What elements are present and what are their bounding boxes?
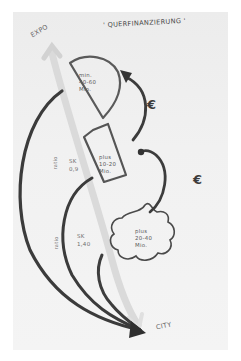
euro-icon: € — [147, 97, 156, 112]
arrowhead-euro-2-icon — [138, 149, 144, 155]
ratio-2-label: ratio — [53, 236, 59, 249]
ratio-2-code: SK — [77, 232, 90, 240]
zone-3-label: plus 20-40 Mio. — [135, 228, 152, 249]
main-axis-arrow — [52, 53, 138, 325]
diagram-canvas — [0, 0, 241, 361]
euro-icon: € — [193, 172, 202, 187]
zone-1-unit: Mio. — [79, 86, 96, 93]
ratio-1-values: SK 0,9 — [69, 157, 79, 173]
ratio-1-value: 0,9 — [69, 165, 79, 173]
zone-1-label: min. 40-60 Mio. — [79, 72, 96, 93]
zone-3-prefix: plus — [135, 228, 152, 235]
zone-3-unit: Mio. — [135, 242, 152, 249]
zone-2-range: 10-20 — [99, 161, 116, 168]
zone-2-label: plus 10-20 Mio. — [99, 154, 116, 175]
zone-3-range: 20-40 — [135, 235, 152, 242]
euro-flow-arrow-2 — [140, 151, 165, 212]
euro-flow-arrow-1 — [126, 77, 146, 140]
ratio-1-label: ratio — [52, 156, 58, 169]
zone-2-prefix: plus — [99, 154, 116, 161]
zone-1-prefix: min. — [79, 72, 96, 79]
ratio-2-value: 1,40 — [77, 240, 90, 248]
zone-2-unit: Mio. — [99, 168, 116, 175]
zone-1-range: 40-60 — [79, 79, 96, 86]
ratio-1-code: SK — [69, 157, 79, 165]
ratio-2-values: SK 1,40 — [77, 232, 90, 248]
